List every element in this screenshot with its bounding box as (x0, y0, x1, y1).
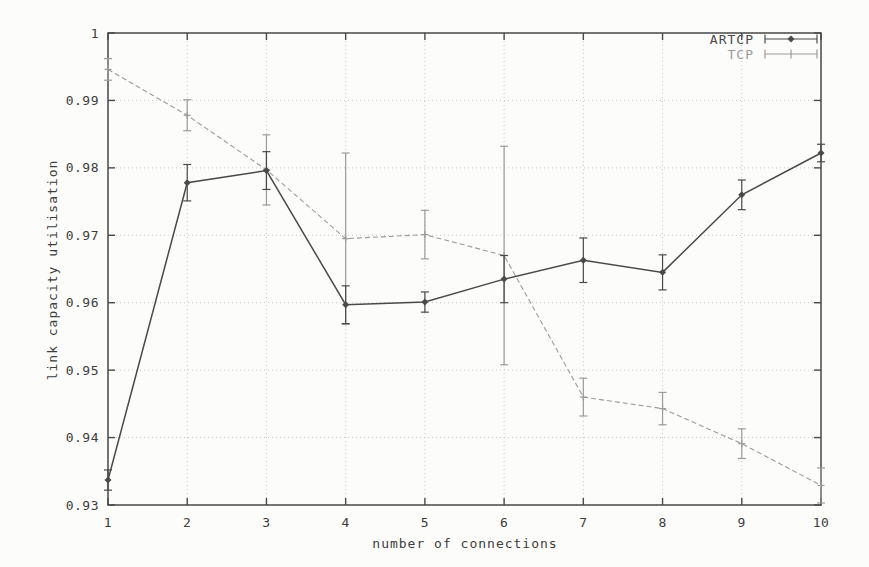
legend-label-tcp: TCP (728, 47, 754, 62)
y-tick-label: 0.99 (66, 93, 99, 108)
x-tick-label: 7 (579, 515, 587, 530)
plot-border (108, 33, 821, 505)
legend-sample-artcp-icon (762, 32, 820, 46)
y-tick-label: 0.94 (66, 430, 99, 445)
legend-row-tcp: TCP (710, 47, 820, 61)
y-tick-label: 0.95 (66, 363, 99, 378)
axis-ticks (108, 33, 821, 505)
legend: ARTCP TCP (710, 32, 820, 62)
series-line (108, 69, 821, 485)
x-tick-label: 2 (183, 515, 191, 530)
x-tick-label: 4 (342, 515, 350, 530)
x-tick-label: 5 (421, 515, 429, 530)
diamond-marker (105, 477, 112, 484)
diamond-marker (818, 150, 825, 157)
x-tick-label: 6 (500, 515, 508, 530)
diamond-marker (501, 276, 508, 283)
x-axis-label: number of connections (265, 536, 665, 554)
y-tick-labels: 10.990.980.970.960.950.940.93 (66, 26, 99, 513)
y-tick-label: 0.97 (66, 228, 99, 243)
legend-row-artcp: ARTCP (710, 32, 820, 46)
legend-label-artcp: ARTCP (710, 32, 754, 47)
x-tick-label: 1 (104, 515, 112, 530)
series-tcp (104, 59, 825, 503)
x-tick-label: 9 (738, 515, 746, 530)
diamond-marker (184, 179, 191, 186)
plot-area: 10.990.980.970.960.950.940.9312345678910 (0, 0, 869, 567)
gridlines (108, 33, 821, 505)
y-tick-label: 1 (91, 26, 99, 41)
chart-figure: 10.990.980.970.960.950.940.9312345678910… (0, 0, 869, 567)
y-tick-label: 0.93 (66, 498, 99, 513)
diamond-marker (580, 257, 587, 264)
y-tick-label: 0.98 (66, 160, 99, 175)
x-tick-labels: 12345678910 (104, 515, 829, 530)
diamond-marker (421, 299, 428, 306)
x-tick-label: 8 (658, 515, 666, 530)
x-tick-label: 10 (813, 515, 830, 530)
x-tick-label: 3 (262, 515, 270, 530)
series-artcp (104, 144, 825, 490)
legend-sample-tcp-icon (762, 47, 820, 61)
y-tick-label: 0.96 (66, 295, 99, 310)
y-axis-label: link capacity utilisation (45, 60, 63, 480)
